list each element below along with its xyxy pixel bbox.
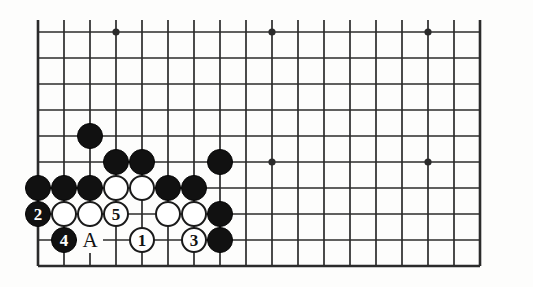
white-stone[interactable] [51,201,77,227]
star-point [112,28,119,35]
white-stone-move-3[interactable]: 3 [181,227,207,253]
black-stone[interactable] [207,149,233,175]
white-stone-move-5[interactable]: 5 [103,201,129,227]
black-stone[interactable] [207,227,233,253]
black-stone-move-2[interactable]: 2 [25,201,51,227]
star-point [424,28,431,35]
white-stone[interactable] [103,175,129,201]
star-point [268,28,275,35]
black-stone[interactable] [25,175,51,201]
black-stone-move-4[interactable]: 4 [51,227,77,253]
star-point [424,158,431,165]
white-stone-move-1[interactable]: 1 [129,227,155,253]
white-stone[interactable] [129,175,155,201]
black-stone[interactable] [77,123,103,149]
move-number: 2 [34,205,43,222]
move-number: 5 [112,205,121,222]
star-point [268,158,275,165]
go-diagram-figure: 25413 A [0,0,533,287]
point-label-a[interactable]: A [77,227,103,253]
black-stone[interactable] [103,149,129,175]
black-stone[interactable] [155,175,181,201]
white-stone[interactable] [77,201,103,227]
black-stone[interactable] [51,175,77,201]
black-stone[interactable] [77,175,103,201]
black-stone[interactable] [181,175,207,201]
black-stone[interactable] [129,149,155,175]
white-stone[interactable] [181,201,207,227]
white-stone[interactable] [155,201,181,227]
move-number: 1 [138,231,147,248]
move-number: 4 [60,231,69,248]
black-stone[interactable] [207,201,233,227]
move-number: 3 [190,231,199,248]
